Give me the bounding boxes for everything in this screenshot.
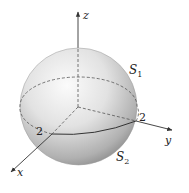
- sphere-figure: z y x S1 S2 2 2: [0, 0, 189, 193]
- s2-label: S2: [116, 150, 129, 166]
- s1-label: S1: [129, 63, 142, 79]
- y-intercept-label: 2: [139, 111, 146, 124]
- x-axis-label: x: [17, 166, 24, 179]
- x-intercept-label: 2: [36, 125, 43, 138]
- y-axis-label: y: [164, 134, 172, 147]
- sphere-diagram: z y x S1 S2 2 2: [0, 0, 189, 193]
- z-axis-label: z: [82, 9, 89, 22]
